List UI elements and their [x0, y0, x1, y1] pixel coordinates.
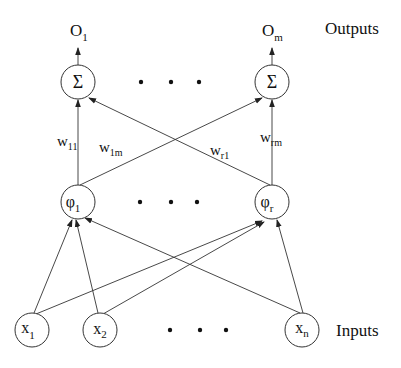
- sum-node-1: Σ: [61, 65, 95, 99]
- input-node-2: x2: [83, 313, 117, 347]
- inputs-layer-label: Inputs: [336, 321, 379, 340]
- edge-x2-phir: [103, 222, 264, 314]
- rbf-node-r: φr: [255, 185, 289, 219]
- sum-node-m: Σ: [255, 65, 289, 99]
- input-node-n: xn: [285, 313, 319, 347]
- weight-label-w11: w11: [57, 133, 77, 152]
- edge-wr1: [89, 98, 270, 185]
- edge-x1-phi1: [34, 220, 72, 313]
- output-ellipsis: [139, 80, 201, 84]
- input-ellipsis: [168, 328, 228, 332]
- edge-xn-phir: [277, 220, 303, 313]
- sigma-icon: Σ: [267, 72, 277, 92]
- rbf-node-1: φ1: [61, 185, 95, 219]
- input-node-1: x1: [15, 313, 49, 347]
- edge-x2-phi1: [76, 220, 98, 313]
- weight-label-w1m: w1m: [99, 139, 123, 158]
- output-label-1: O1: [70, 21, 88, 43]
- weight-label-wr1: wr1: [210, 142, 229, 161]
- rbf-network-diagram: O1 Om Outputs Σ Σ w11 w1m wr1 wrm φ1 φr …: [0, 0, 401, 368]
- weight-label-wrm: wrm: [260, 129, 282, 148]
- output-label-m: Om: [262, 21, 283, 43]
- sigma-icon: Σ: [73, 72, 83, 92]
- hidden-ellipsis: [138, 200, 199, 204]
- outputs-layer-label: Outputs: [325, 19, 379, 38]
- edge-xn-phi1: [85, 218, 300, 313]
- edge-x1-phir: [36, 221, 262, 314]
